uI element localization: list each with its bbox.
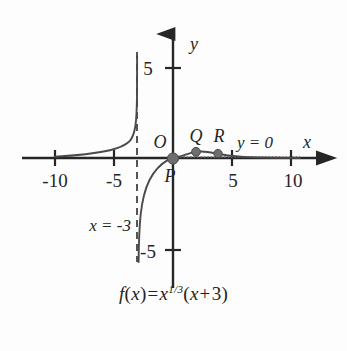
caption-x-2: x (160, 283, 169, 304)
y-tick-label-minus5: -5 (140, 241, 156, 262)
origin-label: O (154, 132, 167, 152)
caption-open-paren-2: ( (183, 283, 190, 304)
caption-close-paren-2: ) (221, 283, 228, 304)
y-tick-label-5: 5 (143, 58, 153, 79)
point-r-label: R (213, 126, 225, 146)
x-axis-label: x (302, 132, 311, 152)
y-axis-label: y (188, 34, 198, 54)
point-q-label: Q (190, 126, 203, 146)
point-p-marker (167, 153, 178, 164)
asymptote-annotation: x = -3 (88, 216, 131, 235)
horizontal-line-annotation: y = 0 (235, 133, 274, 152)
x-tick-label-5: 5 (228, 170, 238, 191)
point-p-label: P (164, 166, 176, 186)
function-graph-figure: -10 -5 5 10 5 -5 y x O P Q R x = -3 y = … (0, 0, 347, 351)
x-tick-label-minus5: -5 (106, 170, 122, 191)
point-q-marker (192, 147, 201, 156)
caption-plus: + (199, 283, 212, 304)
caption-x-1: x (131, 283, 140, 304)
x-tick-label-10: 10 (284, 170, 303, 191)
curve-right-branch (139, 151, 300, 262)
curve-left-branch (55, 56, 137, 157)
x-tick-label-minus10: -10 (42, 170, 67, 191)
caption-exponent: 1/3 (168, 283, 183, 295)
function-caption: f(x)=x1/3(x+3) (0, 283, 347, 305)
caption-x-3: x (190, 283, 199, 304)
caption-three: 3 (212, 283, 222, 304)
caption-close-paren-1: ) (140, 283, 147, 304)
caption-equals: = (147, 283, 160, 304)
point-r-marker (214, 149, 222, 157)
